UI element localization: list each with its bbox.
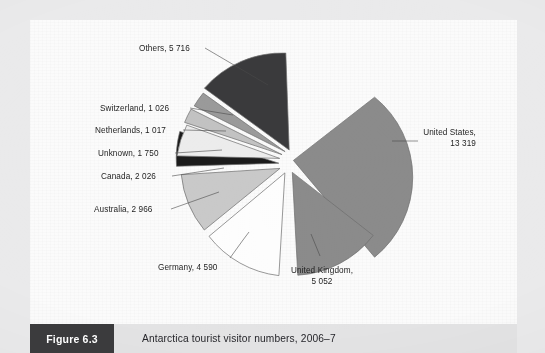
label-australia: Australia, 2 966 [94,204,153,215]
label-switzerland: Switzerland, 1 026 [100,103,169,114]
slice-others [204,53,289,150]
label-netherlands: Netherlands, 1 017 [95,125,166,136]
figure-caption-bar: Figure 6.3 Antarctica tourist visitor nu… [30,324,517,353]
label-germany: Germany, 4 590 [158,262,218,273]
label-united-states-line1: United States, [423,128,476,137]
label-united-states: United States, 13 319 [406,127,476,149]
label-unknown: Unknown, 1 750 [98,148,159,159]
label-united-kingdom-line2: 5 052 [312,277,333,286]
label-united-states-line2: 13 319 [450,139,476,148]
pie-svg [0,0,545,353]
label-others: Others, 5 716 [139,43,190,54]
figure-caption-text: Antarctica tourist visitor numbers, 2006… [142,324,336,353]
figure-page: Others, 5 716 Switzerland, 1 026 Netherl… [0,0,545,353]
label-canada: Canada, 2 026 [101,171,156,182]
pie-slices [176,53,413,276]
figure-number-box: Figure 6.3 [30,324,114,353]
figure-number-label: Figure 6.3 [46,333,98,345]
label-united-kingdom: United Kingdom, 5 052 [282,265,362,287]
pie-chart: Others, 5 716 Switzerland, 1 026 Netherl… [0,0,545,353]
label-united-kingdom-line1: United Kingdom, [291,266,353,275]
